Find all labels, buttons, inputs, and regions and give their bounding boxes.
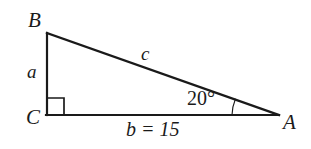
side-label-b: b = 15: [126, 119, 180, 139]
geometry-figure: B C A a c 20° b = 15: [0, 0, 311, 149]
side-label-c: c: [141, 44, 149, 63]
right-angle-marker-icon: [47, 98, 64, 115]
vertex-label-c: C: [26, 107, 40, 128]
vertex-label-a: A: [283, 112, 296, 133]
angle-arc-marker-icon: [232, 99, 236, 115]
side-label-a: a: [27, 62, 37, 81]
side-c-line: [47, 33, 279, 115]
angle-label-20-degrees: 20°: [187, 88, 215, 108]
vertex-label-b: B: [28, 10, 41, 31]
